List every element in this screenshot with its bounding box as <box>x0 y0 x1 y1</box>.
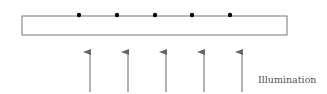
particle-dot <box>115 13 119 17</box>
particle-dot <box>190 13 194 17</box>
illumination-arrows <box>90 52 242 92</box>
plate <box>22 16 287 35</box>
particle-dot <box>228 13 232 17</box>
particle-dot <box>77 13 81 17</box>
illumination-label: Illumination <box>258 74 316 85</box>
particle-dot <box>153 13 157 17</box>
